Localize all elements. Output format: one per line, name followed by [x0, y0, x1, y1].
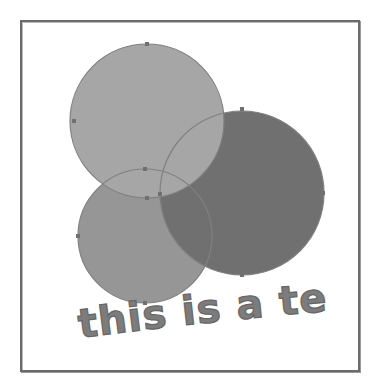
handle-big-circle-left[interactable]: [158, 192, 162, 196]
handle-top-circle-bottom[interactable]: [145, 196, 149, 200]
handle-big-circle-top[interactable]: [240, 107, 244, 111]
handle-top-circle-top[interactable]: [145, 42, 149, 46]
circle-top[interactable]: [70, 44, 224, 198]
drawing-canvas[interactable]: this is a test: [0, 0, 373, 382]
handle-big-circle-right[interactable]: [321, 191, 325, 195]
handle-big-circle-bottom[interactable]: [240, 273, 244, 277]
handle-bl-circle-left[interactable]: [76, 234, 80, 238]
handle-top-circle-left[interactable]: [72, 119, 76, 123]
handle-bl-circle-top[interactable]: [143, 167, 147, 171]
